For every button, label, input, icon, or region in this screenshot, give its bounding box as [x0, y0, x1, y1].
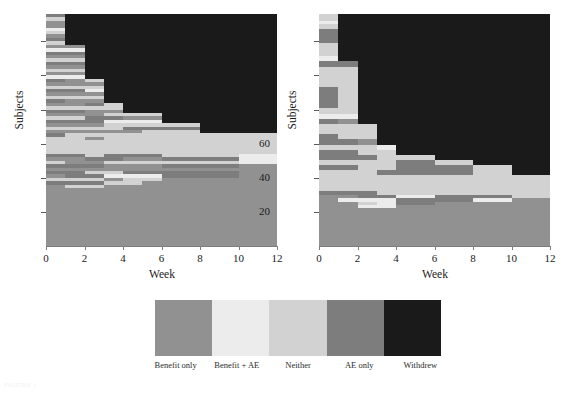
- y-axis-title-left: Subjects: [13, 70, 25, 150]
- x-axis-title-left: Week: [46, 268, 278, 280]
- lasagna-segment: [46, 69, 85, 72]
- lasagna-segment: [319, 198, 338, 201]
- lasagna-segment: [396, 160, 435, 165]
- lasagna-segment: [46, 154, 85, 157]
- lasagna-segment: [65, 79, 84, 82]
- lasagna-segment: [358, 101, 551, 108]
- lasagna-segment: [46, 137, 85, 140]
- lasagna-segment: [46, 113, 104, 116]
- lasagna-segment: [104, 99, 277, 102]
- lasagna-segment: [358, 81, 551, 88]
- lasagna-segment: [512, 195, 551, 198]
- lasagna-segment: [200, 130, 277, 133]
- lasagna-segment: [104, 113, 162, 116]
- lasagna-segment: [396, 145, 550, 150]
- lasagna-segment: [319, 108, 358, 114]
- x-tick-label: 0: [33, 252, 59, 265]
- lasagna-segment: [338, 119, 357, 124]
- lasagna-segment: [46, 226, 277, 246]
- x-tick-mark: [162, 246, 163, 250]
- lasagna-segment: [85, 157, 124, 160]
- lasagna-segment: [85, 171, 124, 174]
- lasagna-segment: [338, 56, 550, 61]
- lasagna-segment: [85, 116, 124, 119]
- lasagna-segment: [358, 139, 377, 144]
- lasagna-segment: [85, 52, 278, 55]
- lasagna-segment: [338, 134, 377, 139]
- lasagna-segment: [473, 165, 512, 170]
- lasagna-segment: [85, 110, 124, 113]
- y-tick-label: 60: [240, 138, 270, 149]
- lasagna-segment: [319, 101, 338, 108]
- lasagna-segment: [396, 202, 435, 205]
- y-tick-label: 80: [240, 104, 270, 115]
- lasagna-segment: [319, 195, 358, 198]
- y-tick-mark: [314, 212, 319, 213]
- lasagna-segment: [46, 82, 104, 85]
- lasagna-segment: [319, 160, 396, 165]
- lasagna-segment: [377, 191, 550, 195]
- lasagna-segment: [358, 108, 551, 114]
- lasagna-segment: [123, 116, 162, 119]
- lasagna-segment: [338, 29, 550, 36]
- y-tick-mark: [41, 75, 46, 76]
- x-tick-mark: [473, 246, 474, 250]
- lasagna-segment: [377, 124, 550, 129]
- lasagna-segment: [162, 174, 239, 177]
- lasagna-segment: [338, 101, 357, 108]
- lasagna-segment: [358, 87, 551, 94]
- y-tick-label: 20: [240, 206, 270, 217]
- lasagna-segment: [162, 157, 239, 160]
- lasagna-segment: [377, 155, 435, 160]
- lasagna-segment: [46, 164, 104, 167]
- x-tick-mark: [435, 246, 436, 250]
- lasagna-segment: [85, 48, 278, 51]
- lasagna-segment: [104, 161, 239, 164]
- figure-caption: FIGURE 1: [4, 381, 37, 389]
- lasagna-segment: [435, 202, 551, 205]
- lasagna-segment: [512, 198, 551, 201]
- x-tick-label: 4: [383, 252, 409, 265]
- lasagna-segment: [46, 103, 85, 106]
- x-tick-mark: [123, 246, 124, 250]
- lasagna-segment: [85, 55, 278, 58]
- legend-swatches: [155, 300, 441, 356]
- lasagna-segment: [46, 106, 123, 109]
- lasagna-segment: [46, 31, 65, 34]
- lasagna-segment: [65, 174, 104, 177]
- y-tick-label: 120: [240, 35, 270, 46]
- lasagna-segment: [512, 165, 551, 170]
- y-tick-mark: [41, 212, 46, 213]
- lasagna-segment: [104, 89, 277, 92]
- lasagna-segment: [46, 41, 65, 44]
- lasagna-segment: [319, 124, 377, 129]
- legend-swatch: [212, 300, 269, 356]
- lasagna-segment: [338, 87, 357, 94]
- lasagna-segment: [338, 94, 357, 101]
- lasagna-segment: [46, 99, 65, 102]
- lasagna-segment: [319, 165, 358, 170]
- legend-label: Benefit only: [145, 360, 206, 371]
- x-tick-mark: [200, 246, 201, 250]
- lasagna-segment: [319, 87, 338, 94]
- lasagna-segment: [85, 58, 278, 61]
- x-tick-label: 6: [149, 252, 175, 265]
- lasagna-segment: [65, 99, 104, 102]
- lasagna-plot-right: [319, 14, 550, 246]
- y-axis-title-right: Subjects: [286, 70, 298, 150]
- lasagna-segment: [319, 129, 377, 134]
- lasagna-segment: [65, 24, 277, 27]
- lasagna-segment: [104, 154, 162, 157]
- legend-label: Benefit + AE: [206, 360, 267, 371]
- lasagna-segment: [85, 103, 104, 106]
- lasagna-segment: [46, 45, 85, 48]
- lasagna-segment: [358, 205, 397, 208]
- lasagna-segment: [85, 65, 278, 68]
- lasagna-segment: [319, 17, 338, 20]
- y-tick-mark: [41, 178, 46, 179]
- lasagna-segment: [319, 56, 338, 61]
- lasagna-segment: [65, 161, 104, 164]
- lasagna-segment: [46, 127, 123, 130]
- lasagna-segment: [46, 116, 85, 119]
- lasagna-segment: [319, 61, 358, 67]
